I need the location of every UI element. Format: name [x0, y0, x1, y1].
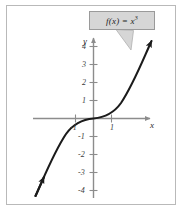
callout-tail: [116, 30, 134, 51]
x-tick-label--1: -1: [70, 124, 77, 132]
y-tick-label-4: 4: [82, 43, 86, 51]
y-tick-label-2: 2: [82, 79, 86, 87]
y-tick-label--1: -1: [78, 133, 85, 141]
callout-equals: =: [122, 16, 128, 26]
function-callout-box: f(x) = x3: [89, 11, 155, 30]
x-tick-label-1: 1: [110, 124, 114, 132]
cubic-curve-start-arrow: [36, 177, 45, 196]
y-tick-label--4: -4: [78, 187, 85, 195]
y-tick-label--2: -2: [78, 151, 85, 159]
callout-function-name: f(x): [106, 16, 119, 26]
y-tick-label--3: -3: [78, 169, 85, 177]
y-tick-label-1: 1: [82, 97, 86, 105]
y-tick-label-3: 3: [82, 61, 86, 69]
figure-container: f(x) = x3 x y -1 1 4 3 2 1 -1 -2 -3 -4: [0, 0, 184, 214]
x-axis-label: x: [150, 121, 154, 130]
graph-canvas: [0, 0, 184, 214]
callout-exponent: 3: [135, 15, 138, 21]
function-callout-label: f(x) = x3: [106, 16, 138, 26]
